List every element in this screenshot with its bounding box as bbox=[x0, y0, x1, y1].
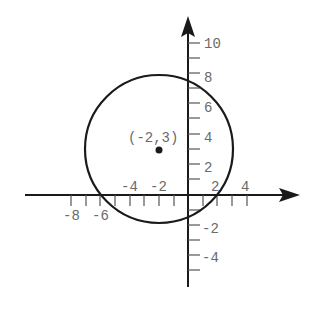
x-label-4: 4 bbox=[241, 179, 249, 195]
y-axis-ticks bbox=[188, 43, 200, 270]
y-label-neg2: -2 bbox=[202, 221, 219, 237]
x-label-neg8: -8 bbox=[63, 208, 80, 224]
x-label-neg6: -6 bbox=[92, 208, 109, 224]
y-label-10: 10 bbox=[204, 36, 221, 52]
y-label-8: 8 bbox=[204, 70, 212, 86]
y-label-neg4: -4 bbox=[202, 250, 219, 266]
y-label-2: 2 bbox=[204, 160, 212, 176]
center-label: (-2,3) bbox=[128, 130, 178, 146]
y-label-4: 4 bbox=[204, 130, 212, 146]
x-label-neg4: -4 bbox=[121, 179, 138, 195]
x-label-neg2: -2 bbox=[150, 179, 167, 195]
x-axis-ticks bbox=[71, 195, 247, 206]
center-point bbox=[156, 147, 163, 154]
coordinate-plane: (-2,3) -8 -6 -4 -2 2 4 10 8 6 4 2 -2 -4 bbox=[0, 0, 312, 314]
y-label-6: 6 bbox=[204, 100, 212, 116]
x-label-2: 2 bbox=[211, 179, 219, 195]
